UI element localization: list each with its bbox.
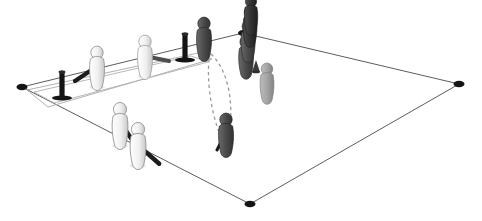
scene-svg	[0, 0, 482, 221]
corner-marker-left	[17, 84, 28, 90]
figure-dark-bottom	[217, 113, 234, 157]
post-right	[175, 32, 195, 62]
figure-light-upper-left	[75, 46, 105, 90]
figure-light-lower-b	[130, 122, 160, 169]
figure-mid-gray-right	[260, 63, 274, 104]
figure-dark-upper	[197, 17, 212, 61]
trajectory-arc-left	[208, 53, 219, 132]
figure-dark-stack-top	[244, 0, 257, 36]
cone-marker-base	[252, 71, 260, 74]
corner-marker-bottom	[245, 201, 256, 207]
scene-canvas: 3D perspective tactical scene diagram is…	[0, 0, 482, 221]
post-left	[52, 70, 72, 100]
corner-marker-right	[454, 81, 465, 87]
